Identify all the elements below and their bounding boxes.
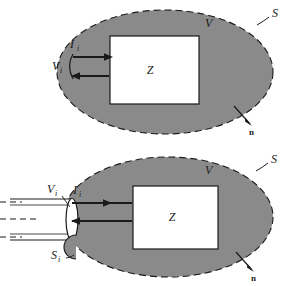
network-box-bottom [133, 186, 218, 249]
label-normal-top: n [249, 127, 254, 137]
network-box-top [110, 36, 199, 104]
label-normal-bottom: n [251, 273, 256, 283]
label-current-top-subscript: i [77, 44, 79, 53]
technical-diagram: I i V i V S n Z [0, 0, 288, 286]
label-port-surface-symbol: S [51, 248, 57, 262]
label-network-bottom: Z [169, 210, 176, 224]
label-network-top: Z [147, 63, 154, 77]
label-voltage-top-subscript: i [60, 66, 62, 75]
label-surface-top: S [272, 6, 278, 20]
label-voltage-bottom-subscript: i [55, 189, 57, 198]
figure-root: I i V i V S n Z [0, 0, 288, 286]
label-port-surface-subscript: i [58, 255, 60, 264]
label-surface-bottom: S [271, 152, 277, 166]
label-current-bottom-subscript: i [79, 190, 81, 199]
